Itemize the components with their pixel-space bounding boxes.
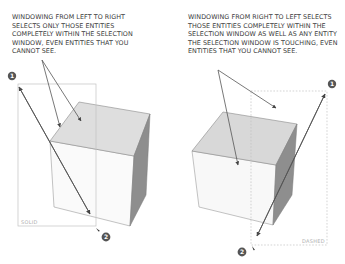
right-cube	[192, 112, 297, 225]
right-end-marker: 2	[238, 246, 255, 256]
svg-text:1: 1	[10, 72, 14, 79]
left-end-marker: 2	[96, 228, 110, 241]
solid-label: SOLID	[21, 219, 38, 225]
svg-text:1: 1	[330, 80, 334, 87]
svg-text:2: 2	[240, 248, 244, 255]
right-start-marker: 1	[328, 80, 336, 88]
right-panel: DASHED 1 2	[192, 70, 336, 256]
diagram-canvas: SOLID 1 2 DASHED	[0, 0, 345, 264]
left-panel: SOLID 1 2	[8, 60, 150, 241]
left-cube	[50, 102, 150, 226]
svg-text:2: 2	[104, 233, 108, 240]
dashed-label: DASHED	[302, 238, 325, 244]
left-start-marker: 1	[8, 72, 16, 80]
